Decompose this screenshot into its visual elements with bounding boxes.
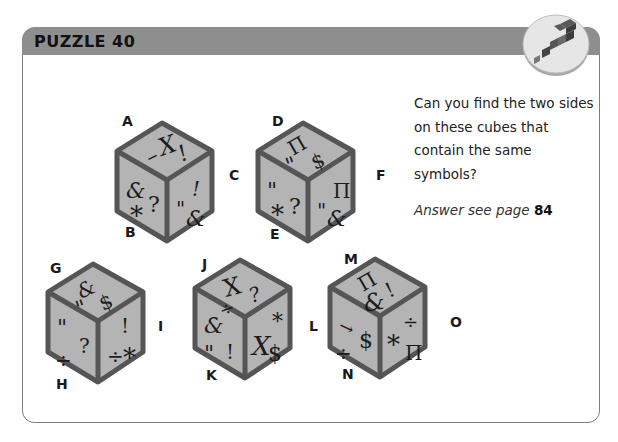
face-label-n: N <box>342 366 354 382</box>
face-label-k: K <box>206 367 217 383</box>
face-label-l: L <box>309 318 318 334</box>
puzzle-frame <box>22 27 600 423</box>
answer-prefix: Answer see page <box>414 202 530 218</box>
face-label-g: G <box>50 260 62 276</box>
question-mark-blocks-icon <box>520 12 592 78</box>
face-label-d: D <box>272 113 284 129</box>
face-label-i: I <box>158 318 163 334</box>
face-label-f: F <box>376 167 386 183</box>
answer-reference: Answer see page 84 <box>414 202 553 218</box>
face-label-a: A <box>122 113 133 129</box>
question-text: Can you find the two sides on these cube… <box>414 92 594 186</box>
face-label-e: E <box>270 226 280 242</box>
face-label-h: H <box>56 376 68 392</box>
puzzle-title: PUZZLE 40 <box>34 32 135 51</box>
answer-page: 84 <box>534 202 553 218</box>
face-label-m: M <box>344 251 358 267</box>
face-label-j: J <box>202 256 207 272</box>
face-label-c: C <box>229 167 239 183</box>
face-label-b: B <box>125 224 136 240</box>
face-label-o: O <box>450 314 462 330</box>
